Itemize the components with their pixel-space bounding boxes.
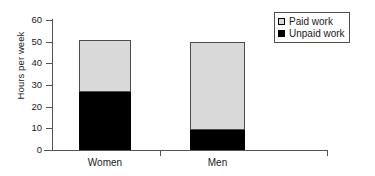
y-tick-label-30: 30 <box>24 80 42 90</box>
y-tick-60 <box>46 20 52 21</box>
x-tick-mid <box>160 150 161 156</box>
y-tick-label-10-wrap: 10 <box>22 123 42 133</box>
y-tick-20 <box>46 107 52 108</box>
y-tick-10 <box>46 128 52 129</box>
y-tick-label-60: 60 <box>24 15 42 25</box>
y-tick-30 <box>46 85 52 86</box>
y-tick-label-20-wrap: 20 <box>22 102 42 112</box>
y-tick-label-50: 50 <box>24 37 42 47</box>
y-tick-50 <box>46 42 52 43</box>
legend-label-unpaid: Unpaid work <box>289 28 345 39</box>
y-tick-40 <box>46 63 52 64</box>
bar-women-segment-unpaid <box>79 92 131 151</box>
bar-men-segment-paid <box>190 42 245 131</box>
legend-item-paid-work: Paid work <box>278 15 345 27</box>
y-tick-label-10: 10 <box>24 123 42 133</box>
x-label-women: Women <box>79 157 131 168</box>
bar-women-segment-paid <box>79 40 131 92</box>
chart-legend: Paid work Unpaid work <box>274 12 350 43</box>
legend-swatch-unpaid-icon <box>278 30 285 37</box>
bar-men <box>190 42 245 150</box>
y-tick-label-60-wrap: 60 <box>22 15 42 25</box>
legend-item-unpaid-work: Unpaid work <box>278 27 345 39</box>
x-label-men: Men <box>190 157 245 168</box>
y-tick-label-40: 40 <box>24 58 42 68</box>
y-tick-label-0-wrap: 0 <box>22 145 42 155</box>
stacked-bar-chart: Hours per week 60 50 40 30 20 10 0 Women <box>0 0 375 176</box>
y-tick-label-50-wrap: 50 <box>22 37 42 47</box>
y-tick-label-30-wrap: 30 <box>22 80 42 90</box>
x-tick-right <box>327 150 328 156</box>
legend-swatch-paid-icon <box>278 18 285 25</box>
y-tick-0 <box>46 150 52 151</box>
y-tick-label-0: 0 <box>24 145 42 155</box>
y-tick-label-40-wrap: 40 <box>22 58 42 68</box>
bar-women <box>79 40 131 151</box>
y-axis-line <box>52 19 53 151</box>
legend-label-paid: Paid work <box>289 16 333 27</box>
x-axis-line <box>44 150 328 151</box>
bar-men-segment-unpaid <box>190 130 245 150</box>
y-tick-label-20: 20 <box>24 102 42 112</box>
